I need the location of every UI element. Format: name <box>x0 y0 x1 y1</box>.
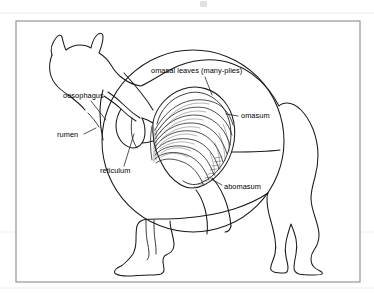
label-reticulum: reticulum <box>100 166 130 175</box>
label-abomasum: abomasum <box>224 182 261 191</box>
ruminant-stomach-figure: omasal leaves (many-plies) oesophagus ru… <box>0 0 374 294</box>
label-omasal-leaves: omasal leaves (many-plies) <box>151 66 242 75</box>
figure-frame <box>16 21 360 282</box>
label-rumen: rumen <box>57 130 78 139</box>
diagram-canvas: omasal leaves (many-plies) oesophagus ru… <box>0 0 374 294</box>
label-oesophagus: oesophagus <box>63 91 104 100</box>
label-omasum: omasum <box>241 111 270 120</box>
